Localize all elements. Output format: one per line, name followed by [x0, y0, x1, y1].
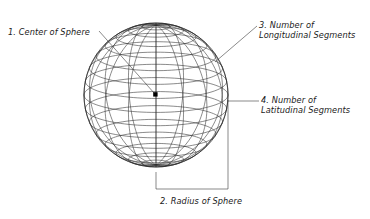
annotation-3-line-1: 3. Number of	[259, 20, 355, 30]
annotation-4-line-2: Latitudinal Segments	[261, 105, 350, 115]
annotation-label-3-longitudinal-segments: 3. Number of Longitudinal Segments	[259, 20, 355, 41]
annotation-label-4-latitudinal-segments: 4. Number of Latitudinal Segments	[261, 95, 350, 116]
diagram-canvas: 1. Center of Sphere 3. Number of Longitu…	[0, 0, 370, 219]
annotation-label-1-center-of-sphere: 1. Center of Sphere	[8, 27, 90, 37]
radius-dimension-bracket	[156, 100, 228, 189]
annotation-3-line-2: Longitudinal Segments	[259, 30, 355, 40]
annotation-label-2-radius-of-sphere: 2. Radius of Sphere	[160, 196, 242, 206]
leader-line-annotation-3	[215, 26, 257, 62]
annotation-2-line-1: 2. Radius of Sphere	[160, 196, 242, 206]
center-of-sphere-point	[153, 92, 157, 96]
annotation-4-line-1: 4. Number of	[261, 95, 350, 105]
leader-lines-group	[99, 26, 259, 101]
annotation-1-line-1: 1. Center of Sphere	[8, 27, 90, 37]
